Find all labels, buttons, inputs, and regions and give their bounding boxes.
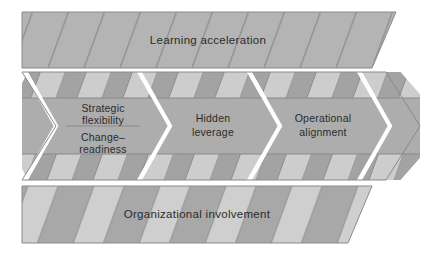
- arrow-label-hidden-line2: leverage: [192, 126, 234, 138]
- arrow-label-hidden-line1: Hidden: [196, 112, 230, 124]
- chevron-process-diagram: Learning acceleration: [0, 0, 448, 255]
- arrow-label-change-line1: Change–: [81, 131, 125, 143]
- arrow-label-operational-line1: Operational: [295, 112, 351, 124]
- band-label-learning-acceleration: Learning acceleration: [150, 34, 266, 46]
- arrow-label-change-line2: readiness: [79, 143, 126, 155]
- arrow-label-strategic-line2: flexibility: [82, 114, 124, 126]
- arrow-label-strategic-line1: Strategic: [81, 102, 124, 114]
- arrow-label-operational-line2: alignment: [299, 126, 346, 138]
- band-label-organizational-involvement: Organizational involvement: [124, 208, 271, 220]
- diagram-canvas: Learning acceleration: [0, 0, 448, 255]
